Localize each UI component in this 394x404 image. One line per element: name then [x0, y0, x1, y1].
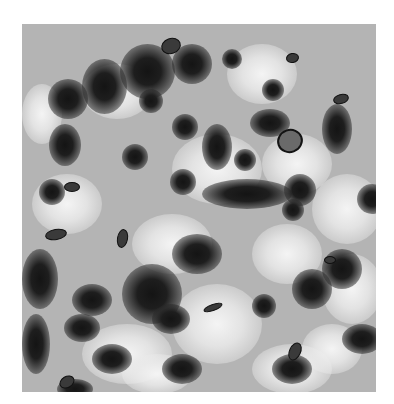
dark-blob: [172, 114, 198, 140]
dark-blob: [139, 89, 163, 113]
dark-blob: [92, 344, 132, 374]
dark-blob: [39, 179, 65, 205]
dark-blob: [122, 144, 148, 170]
dark-blob: [222, 49, 242, 69]
dark-blob: [172, 234, 222, 274]
dark-blob: [202, 179, 292, 209]
dark-speck: [285, 52, 300, 64]
noise-texture-image: [22, 24, 376, 392]
dark-blob: [48, 79, 88, 119]
dark-blob: [202, 124, 232, 170]
dark-blob: [234, 149, 256, 171]
dark-blob: [22, 314, 50, 374]
dark-blob: [72, 284, 112, 316]
dark-blob: [282, 199, 304, 221]
dark-blob: [252, 294, 276, 318]
dark-blob: [82, 59, 127, 114]
dark-speck: [64, 182, 80, 192]
dark-speck: [115, 228, 129, 249]
dark-speck: [324, 256, 336, 264]
dark-blob: [342, 324, 376, 354]
dark-blob: [49, 124, 81, 166]
dark-blob: [22, 249, 58, 309]
dark-blob: [292, 269, 332, 309]
dark-blob: [64, 314, 100, 342]
dark-blob: [322, 104, 352, 154]
dark-blob: [162, 354, 202, 384]
dark-blob: [170, 169, 196, 195]
dark-blob: [152, 304, 190, 334]
dark-blob: [262, 79, 284, 101]
